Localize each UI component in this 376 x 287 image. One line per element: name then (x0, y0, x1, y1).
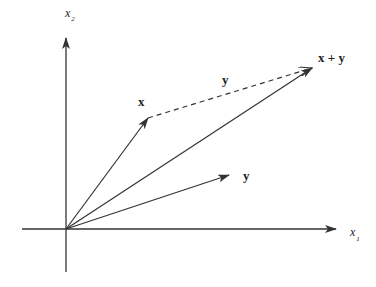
vector-x-label: x (138, 94, 145, 109)
vector-addition-diagram: x2 x1 x y x + y y (0, 0, 376, 287)
vector-y-label: y (243, 168, 250, 183)
vector-y-translated (148, 68, 312, 118)
vector-x (66, 118, 148, 229)
vector-y-translated-label: y (222, 72, 229, 87)
x2-axis-label: x2 (64, 6, 75, 23)
vector-sum-label: x + y (318, 50, 345, 65)
vector-sum (66, 68, 312, 229)
x1-axis-label: x1 (349, 225, 360, 243)
vector-y (66, 175, 229, 229)
